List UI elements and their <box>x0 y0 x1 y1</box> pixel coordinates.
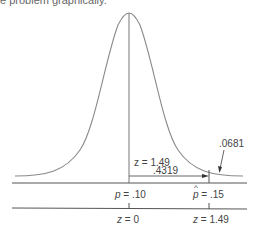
z0-tick-label: z = 0 <box>117 214 139 225</box>
z149-value: = 1.49 <box>201 214 229 225</box>
p-tick-label: p = .10 <box>115 189 146 200</box>
area-label: .4319 <box>153 165 178 176</box>
z149-tick-label: z = 1.49 <box>193 214 229 225</box>
arrowhead-down <box>218 166 222 173</box>
p-hat-value: = .15 <box>201 189 224 200</box>
normal-distribution-diagram: e problem graphically. z = 1.49 .4319 .0… <box>0 0 257 232</box>
tail-area-label: .0681 <box>219 138 244 149</box>
p-hat-symbol: ^ p <box>193 189 199 200</box>
tail-arrow <box>220 150 224 169</box>
z-axis <box>12 208 247 209</box>
z0-value: = 0 <box>125 214 139 225</box>
z-symbol: z <box>117 214 122 225</box>
p-value: = .10 <box>123 189 146 200</box>
p-symbol: p <box>115 189 121 200</box>
arrowhead-right <box>202 174 209 178</box>
p-hat-tick-label: ^ p = .15 <box>193 189 224 200</box>
z-symbol-2: z <box>193 214 198 225</box>
